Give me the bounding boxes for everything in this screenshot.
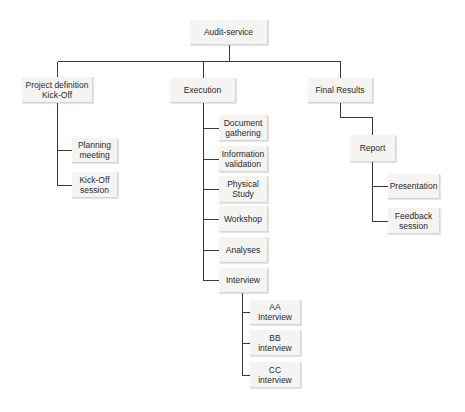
node-document-gathering: Document gathering bbox=[219, 115, 268, 141]
node-label: Physical Study bbox=[227, 179, 259, 199]
node-workshop: Workshop bbox=[219, 206, 268, 232]
node-label: Execution bbox=[184, 85, 221, 95]
node-label: Feedback session bbox=[395, 211, 432, 231]
node-bb-interview: BB interview bbox=[250, 330, 301, 356]
node-label: Presentation bbox=[390, 181, 438, 191]
node-label: Project definition Kick-Off bbox=[26, 80, 89, 100]
node-feedback-session: Feedback session bbox=[388, 208, 440, 234]
node-aa-interview: AA Interview bbox=[250, 300, 301, 325]
node-label: Kick-Off session bbox=[79, 175, 109, 195]
node-label: BB interview bbox=[252, 333, 298, 353]
node-analyses: Analyses bbox=[219, 237, 268, 263]
node-label: CC interview bbox=[252, 365, 298, 385]
node-planning-meeting: Planning meeting bbox=[72, 138, 118, 163]
node-information-validation: Information validation bbox=[219, 146, 268, 172]
node-label: Analyses bbox=[226, 245, 261, 255]
node-final-results: Final Results bbox=[308, 78, 373, 103]
node-physical-study: Physical Study bbox=[219, 176, 268, 203]
node-label: Report bbox=[360, 143, 386, 153]
node-label: Planning meeting bbox=[78, 140, 111, 160]
node-label: Information validation bbox=[222, 149, 265, 169]
node-report: Report bbox=[350, 135, 396, 162]
node-audit-service: Audit-service bbox=[190, 20, 268, 45]
connector-to-report bbox=[341, 103, 373, 135]
node-interview: Interview bbox=[219, 268, 268, 293]
node-label: Document gathering bbox=[224, 118, 263, 138]
node-kickoff-session: Kick-Off session bbox=[72, 172, 118, 198]
node-label: Workshop bbox=[224, 214, 262, 224]
node-label: Audit-service bbox=[204, 27, 253, 37]
node-label: Final Results bbox=[315, 85, 364, 95]
node-label: Interview bbox=[226, 275, 260, 285]
node-execution: Execution bbox=[170, 78, 236, 103]
audit-service-tree-diagram: Audit-service Project definition Kick-Of… bbox=[0, 0, 465, 412]
node-cc-interview: CC interview bbox=[250, 362, 301, 388]
node-presentation: Presentation bbox=[388, 174, 440, 199]
node-label: AA Interview bbox=[252, 302, 298, 322]
node-project-definition-kickoff: Project definition Kick-Off bbox=[22, 77, 93, 103]
